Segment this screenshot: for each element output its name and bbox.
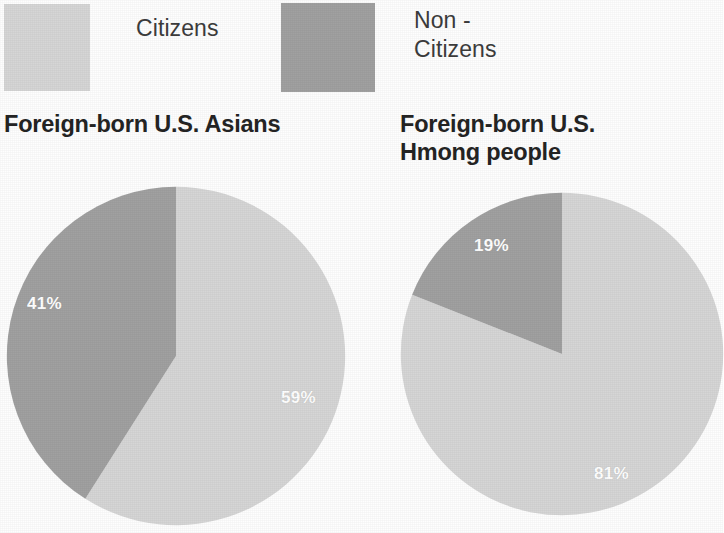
legend-swatch-citizens — [4, 4, 90, 91]
pie-chart-asians — [6, 186, 346, 526]
chart-title-hmong: Foreign-born U.S. Hmong people — [400, 110, 710, 166]
pie-label-hmong-non-citizens: 19% — [474, 236, 509, 256]
pie-slices-hmong — [401, 193, 723, 515]
legend-label-non-citizens: Non - Citizens — [414, 6, 497, 64]
pie-chart-hmong-svg — [400, 192, 724, 516]
pie-chart-hmong — [400, 192, 724, 516]
pie-label-asians-non-citizens: 41% — [27, 294, 62, 314]
legend-swatch-non-citizens — [281, 3, 375, 92]
legend-label-citizens: Citizens — [136, 14, 219, 43]
pie-label-asians-citizens: 59% — [281, 388, 316, 408]
pie-label-hmong-citizens: 81% — [594, 464, 629, 484]
pie-chart-asians-svg — [6, 186, 346, 526]
pie-slices-asians — [7, 187, 345, 525]
chart-title-asians: Foreign-born U.S. Asians — [4, 110, 384, 138]
